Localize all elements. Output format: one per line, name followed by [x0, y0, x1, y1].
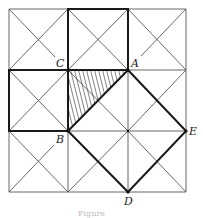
geometry-figure: C A B E D Figure: [0, 0, 203, 218]
point-B: [66, 129, 69, 132]
center-point: [127, 130, 129, 132]
point-C: [66, 68, 69, 71]
label-C: C: [56, 57, 65, 70]
point-D: [126, 190, 129, 193]
label-D: D: [123, 195, 133, 208]
diagonal: [9, 145, 54, 192]
label-B: B: [55, 133, 64, 146]
diagonal: [9, 9, 55, 57]
figure-caption: Figure: [78, 209, 105, 218]
point-A: [126, 68, 129, 71]
label-E: E: [188, 125, 197, 138]
label-A: A: [130, 57, 139, 70]
diagonal: [141, 9, 186, 56]
point-E: [184, 129, 187, 132]
